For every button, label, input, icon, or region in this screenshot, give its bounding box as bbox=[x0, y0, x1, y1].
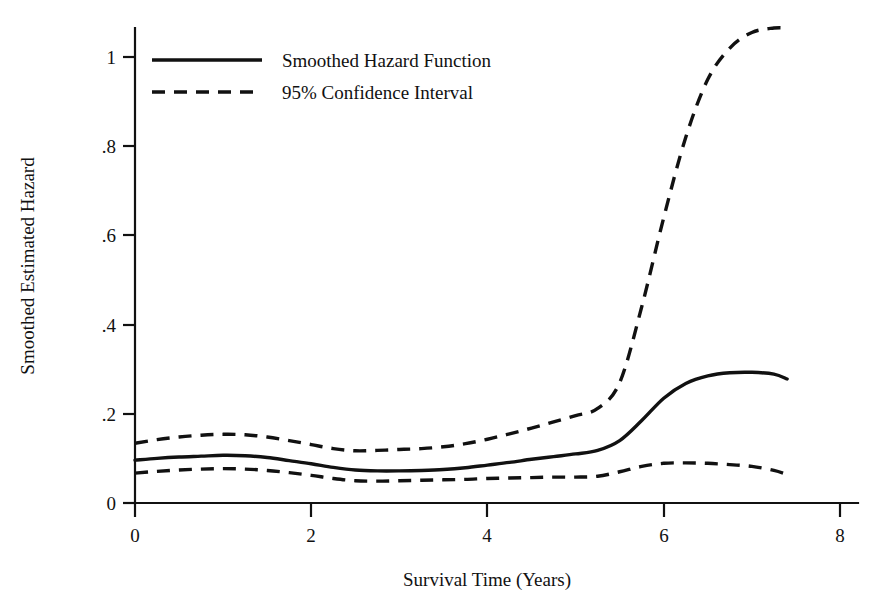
legend-label-confidence-interval: 95% Confidence Interval bbox=[282, 82, 473, 103]
x-axis-ticks bbox=[135, 503, 840, 517]
y-tick-label-02: .2 bbox=[102, 404, 116, 425]
y-tick-label-0: 0 bbox=[107, 493, 117, 514]
x-tick-label-2: 2 bbox=[306, 525, 316, 546]
legend-label-smoothed-hazard-function: Smoothed Hazard Function bbox=[282, 50, 491, 71]
x-axis-title: Survival Time (Years) bbox=[403, 569, 571, 591]
x-tick-label-4: 4 bbox=[482, 525, 492, 546]
x-axis-tick-labels: 0 2 4 6 8 bbox=[130, 525, 845, 546]
y-axis-tick-labels: 1 .8 .6 .4 .2 0 bbox=[102, 47, 117, 514]
smoothed-hazard-line bbox=[135, 372, 787, 471]
y-axis-title: Smoothed Estimated Hazard bbox=[17, 157, 38, 375]
x-tick-label-8: 8 bbox=[835, 525, 845, 546]
y-axis-ticks bbox=[123, 57, 135, 503]
legend: Smoothed Hazard Function 95% Confidence … bbox=[152, 50, 491, 103]
chart-canvas: 1 .8 .6 .4 .2 0 0 2 4 6 8 Survival Time … bbox=[0, 0, 896, 604]
lower-confidence-interval-line bbox=[135, 463, 787, 481]
y-tick-label-04: .4 bbox=[102, 315, 117, 336]
hazard-function-figure: 1 .8 .6 .4 .2 0 0 2 4 6 8 Survival Time … bbox=[0, 0, 896, 604]
y-tick-label-08: .8 bbox=[102, 136, 116, 157]
y-tick-label-1: 1 bbox=[107, 47, 117, 68]
x-tick-label-6: 6 bbox=[659, 525, 669, 546]
x-tick-label-0: 0 bbox=[130, 525, 140, 546]
y-tick-label-06: .6 bbox=[102, 225, 116, 246]
